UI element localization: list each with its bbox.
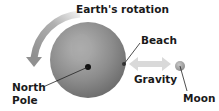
moon-label: Moon [183,92,215,104]
north-pole-label-line1: North [12,81,46,93]
tides-diagram: Earth's rotation Beach Gravity Moon Nort… [0,0,219,111]
gravity-label: Gravity [134,73,177,85]
rotation-label: Earth's rotation [76,3,169,15]
north-pole-label-line2: Pole [12,94,38,106]
beach-label: Beach [141,34,177,46]
moon-leader [180,66,187,91]
gravity-arrow-icon [129,57,171,71]
earth-continent [72,34,92,62]
earth-icon [50,22,126,98]
